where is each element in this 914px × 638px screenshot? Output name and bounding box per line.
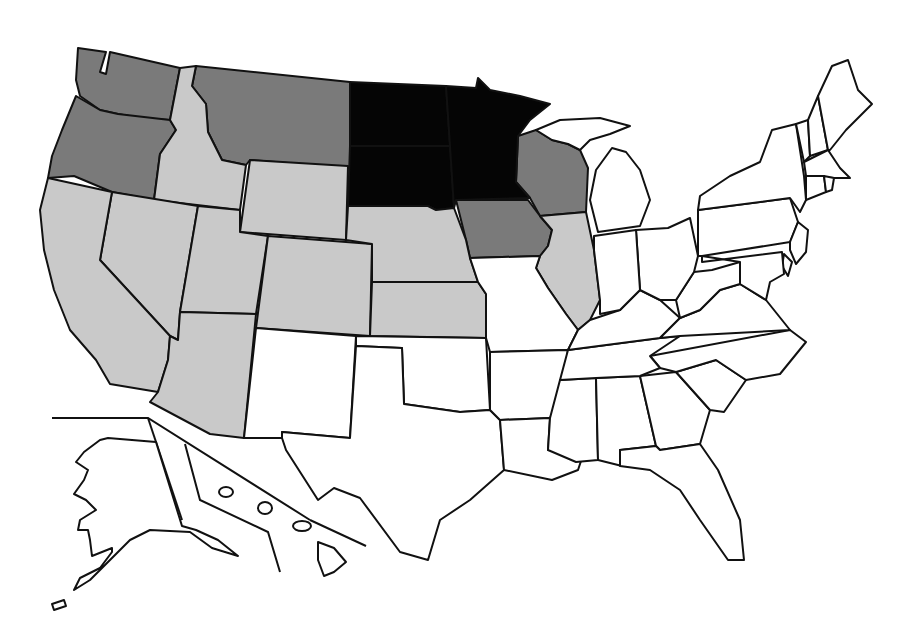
state-maine (818, 60, 872, 150)
state-rhode-island (824, 176, 834, 192)
hawaii-island-oahu (258, 502, 272, 514)
state-alaska (74, 438, 238, 590)
state-north-dakota (350, 82, 450, 146)
hawaii-island-kauai (219, 487, 233, 497)
alaska-islands (52, 600, 66, 610)
state-wyoming (240, 160, 348, 240)
state-connecticut (806, 176, 826, 200)
state-florida (620, 444, 744, 560)
state-kansas (370, 282, 486, 338)
hawaii-island-big (318, 542, 346, 576)
us-choropleth-map (0, 0, 914, 638)
state-michigan (590, 148, 650, 232)
state-south-dakota (348, 146, 454, 210)
hawaii-island-maui (293, 521, 311, 531)
state-colorado (256, 236, 372, 336)
state-new-mexico (244, 328, 356, 438)
state-new-york (698, 124, 806, 212)
